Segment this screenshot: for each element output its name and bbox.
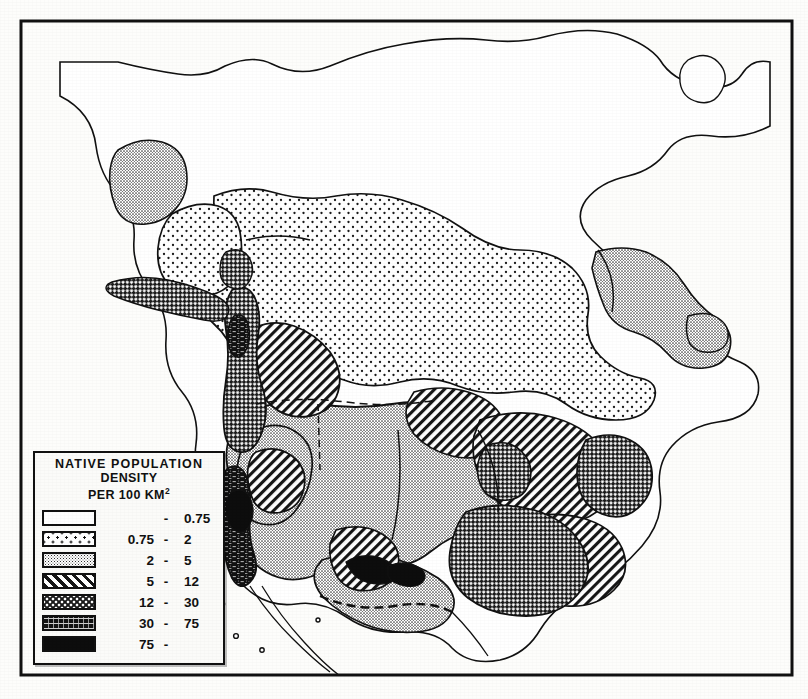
legend-row[interactable]: 30 - 75 xyxy=(35,613,223,634)
legend-high: 12 xyxy=(178,574,226,589)
legend-low: 30 xyxy=(96,616,154,631)
legend-title-line2: DENSITY xyxy=(35,472,223,486)
legend-low: 0.75 xyxy=(96,532,154,547)
legend-high: 75 xyxy=(178,616,226,631)
legend-swatch-white xyxy=(42,510,96,526)
legend-swatch-solid-black xyxy=(42,636,96,652)
legend-range: 30 - 75 xyxy=(96,616,226,631)
legend-range: - 0.75 xyxy=(96,511,226,526)
legend-title-line1: NATIVE POPULATION xyxy=(35,458,223,472)
legend-row[interactable]: 0.75 - 2 xyxy=(35,529,223,550)
legend-range: 2 - 5 xyxy=(96,553,226,568)
legend-high: 0.75 xyxy=(178,511,226,526)
legend-swatch-diagonal-hatch xyxy=(42,573,96,589)
legend-high: 5 xyxy=(178,553,226,568)
legend-range: 0.75 - 2 xyxy=(96,532,226,547)
legend-low: 2 xyxy=(96,553,154,568)
legend-swatch-dark-speckle xyxy=(42,615,96,631)
legend-row[interactable]: 12 - 30 xyxy=(35,592,223,613)
legend-dash: - xyxy=(154,574,178,589)
region-puget-sound-dark xyxy=(228,315,250,357)
legend-row[interactable]: - 0.75 xyxy=(35,508,223,529)
legend-dash: - xyxy=(154,553,178,568)
map-legend: NATIVE POPULATION DENSITY PER 100 KM2 - … xyxy=(33,451,225,665)
legend-dash: - xyxy=(154,595,178,610)
region-atlantic-northeast xyxy=(577,435,652,517)
map-figure: '⁄ xyxy=(0,0,808,699)
island-dot-2 xyxy=(234,634,239,639)
legend-range: 5 - 12 xyxy=(96,574,226,589)
legend-title-line3-text: PER 100 KM xyxy=(88,488,165,502)
legend-dash: - xyxy=(154,511,178,526)
legend-high: 2 xyxy=(178,532,226,547)
legend-high: 30 xyxy=(178,595,226,610)
legend-low: 12 xyxy=(96,595,154,610)
region-california-central xyxy=(226,490,253,532)
legend-swatch-sparse-dots xyxy=(42,531,96,547)
legend-swatch-crosshatch-dots xyxy=(42,594,96,610)
legend-rows: - 0.75 0.75 - 2 2 - 5 xyxy=(35,508,223,655)
island-dot-3 xyxy=(260,648,264,652)
legend-low: 75 xyxy=(96,637,154,652)
legend-swatch-fine-stipple xyxy=(42,552,96,568)
legend-title-superscript: 2 xyxy=(165,486,170,496)
legend-dash: - xyxy=(154,532,178,547)
legend-row[interactable]: 2 - 5 xyxy=(35,550,223,571)
legend-row[interactable]: 75 - xyxy=(35,634,223,655)
island-greenland xyxy=(680,55,726,102)
legend-title: NATIVE POPULATION DENSITY PER 100 KM2 xyxy=(35,453,223,503)
legend-range: 12 - 30 xyxy=(96,595,226,610)
legend-dash: - xyxy=(154,637,178,652)
region-se-alaska-panhandle xyxy=(220,250,253,289)
island-dot-4 xyxy=(316,618,320,622)
legend-title-line3: PER 100 KM2 xyxy=(35,485,223,503)
legend-low: 5 xyxy=(96,574,154,589)
legend-row[interactable]: 5 - 12 xyxy=(35,571,223,592)
legend-dash: - xyxy=(154,616,178,631)
legend-range: 75 - xyxy=(96,637,226,652)
